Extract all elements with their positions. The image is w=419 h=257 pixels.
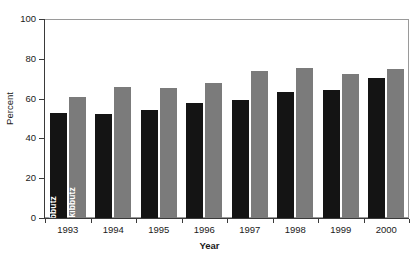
x-tick-label-1993: 1993: [46, 225, 90, 235]
y-tick-mark: [39, 19, 44, 20]
x-tick-label-1998: 1998: [273, 225, 317, 235]
x-tick-mark: [318, 219, 319, 223]
bar-1995-nonkibbutz: [160, 88, 177, 218]
bar-1996-nonkibbutz: [205, 83, 222, 218]
x-tick-mark: [136, 219, 137, 223]
x-tick-mark: [91, 219, 92, 223]
x-tick-label-1999: 1999: [319, 225, 363, 235]
y-tick-mark: [39, 218, 44, 219]
bar-1993-nonkibbutz: Non kibbutz: [69, 97, 86, 218]
bar-2000-kibbutz: [368, 78, 385, 218]
bar-1996-kibbutz: [186, 103, 203, 218]
y-tick-mark: [39, 138, 44, 139]
x-tick-mark: [227, 219, 228, 223]
x-tick-mark: [45, 219, 46, 223]
y-tick-label: 80: [0, 54, 36, 64]
bar-1995-kibbutz: [141, 110, 158, 218]
y-tick-mark: [39, 99, 44, 100]
bars-layer: KibbutzNon kibbutz: [45, 19, 409, 218]
x-tick-label-1994: 1994: [91, 225, 135, 235]
bar-1999-nonkibbutz: [342, 74, 359, 218]
bar-chart: KibbutzNon kibbutz 100806040200 Percent …: [0, 0, 419, 257]
bar-1998-kibbutz: [277, 92, 294, 218]
bar-1994-kibbutz: [95, 114, 112, 218]
x-tick-mark: [273, 219, 274, 223]
y-tick-mark: [39, 178, 44, 179]
bar-1998-nonkibbutz: [296, 68, 313, 218]
bar-1994-nonkibbutz: [114, 87, 131, 218]
x-tick-label-2000: 2000: [364, 225, 408, 235]
x-tick-mark: [182, 219, 183, 223]
x-tick-label-1995: 1995: [137, 225, 181, 235]
y-tick-mark: [39, 59, 44, 60]
x-axis-title: Year: [0, 240, 419, 251]
bar-1993-kibbutz: Kibbutz: [50, 113, 67, 218]
bar-1997-nonkibbutz: [251, 71, 268, 218]
x-tick-mark: [409, 219, 410, 223]
y-tick-label: 20: [0, 173, 36, 183]
bar-1997-kibbutz: [232, 100, 249, 218]
y-axis-title: Percent: [4, 79, 15, 139]
x-tick-label-1997: 1997: [228, 225, 272, 235]
bar-1999-kibbutz: [323, 90, 340, 218]
bar-2000-nonkibbutz: [387, 69, 404, 218]
x-tick-mark: [364, 219, 365, 223]
y-axis-line: [44, 19, 45, 219]
y-tick-label: 100: [0, 14, 36, 24]
y-tick-label: 0: [0, 213, 36, 223]
x-tick-label-1996: 1996: [182, 225, 226, 235]
